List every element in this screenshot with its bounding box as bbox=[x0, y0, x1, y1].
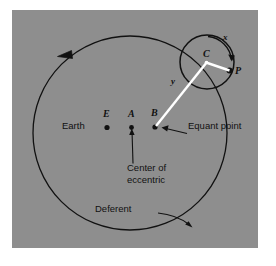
center-of-eccentric-label-line1: Center of bbox=[127, 163, 166, 173]
figure-canvas: x C P y E A B Earth Equant point Center … bbox=[0, 0, 276, 266]
diagram-highlight-lines bbox=[0, 0, 276, 266]
angle-y-label: y bbox=[171, 77, 175, 86]
earth-label: Earth bbox=[62, 121, 85, 131]
point-a-label: A bbox=[128, 109, 135, 120]
epicycle-center-to-planet-line bbox=[206, 63, 230, 71]
planet-label: P bbox=[235, 66, 241, 77]
angle-x-label: x bbox=[223, 33, 228, 42]
center-of-eccentric-label-line2: eccentric bbox=[127, 175, 165, 185]
point-b-label: B bbox=[151, 108, 158, 119]
equant-to-epicycle-center-line bbox=[156, 62, 207, 126]
equant-point-label: Equant point bbox=[188, 121, 241, 131]
epicycle-center-marker bbox=[205, 61, 209, 65]
point-e-label: E bbox=[103, 109, 110, 120]
epicycle-center-label: C bbox=[203, 49, 210, 60]
deferent-label: Deferent bbox=[95, 204, 131, 214]
